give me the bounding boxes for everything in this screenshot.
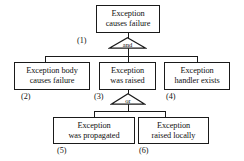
node-text-line: causes failure — [106, 19, 151, 29]
node-text-line: raised locally — [152, 131, 196, 141]
and-gate-label: and — [108, 41, 147, 48]
node-text-line: Exception — [111, 9, 144, 19]
node-text-line: causes failure — [30, 76, 75, 86]
node-text-line: was raised — [110, 76, 144, 86]
node-tag-3: (3) — [94, 92, 104, 101]
edge-and-gate-to-bus — [128, 48, 129, 56]
node-text-line: Exception — [180, 66, 213, 76]
node-text-line: Exception — [157, 121, 190, 131]
edge-or-gate-to-bus — [128, 104, 129, 111]
node-exception-raised-locally[interactable]: Exception raised locally — [138, 117, 209, 144]
node-text-line: was propagated — [68, 131, 119, 141]
node-exception-causes-failure[interactable]: Exception causes failure — [96, 5, 160, 33]
node-text-line: Exception body — [26, 66, 78, 76]
edge-bus-middle-row — [45, 56, 198, 57]
edge-bus-bottom-row — [94, 111, 165, 112]
node-exception-handler-exists[interactable]: Exception handler exists — [164, 62, 230, 90]
node-text-line: handler exists — [174, 76, 219, 86]
node-tag-6: (6) — [139, 146, 149, 155]
node-tag-5: (5) — [57, 146, 67, 155]
node-tag-4: (4) — [166, 92, 176, 101]
fault-tree-diagram: Exception causes failure (1) and Excepti… — [0, 0, 244, 161]
node-exception-was-propagated[interactable]: Exception was propagated — [53, 117, 135, 144]
node-exception-body-causes-failure[interactable]: Exception body causes failure — [14, 62, 90, 90]
node-tag-2: (2) — [21, 92, 31, 101]
or-gate[interactable]: or — [110, 93, 146, 105]
node-exception-was-raised[interactable]: Exception was raised — [99, 62, 156, 90]
and-gate[interactable]: and — [108, 37, 147, 49]
node-text-line: Exception — [111, 66, 144, 76]
node-tag-1: (1) — [77, 36, 87, 45]
node-text-line: Exception — [77, 121, 110, 131]
or-gate-label: or — [110, 97, 146, 104]
